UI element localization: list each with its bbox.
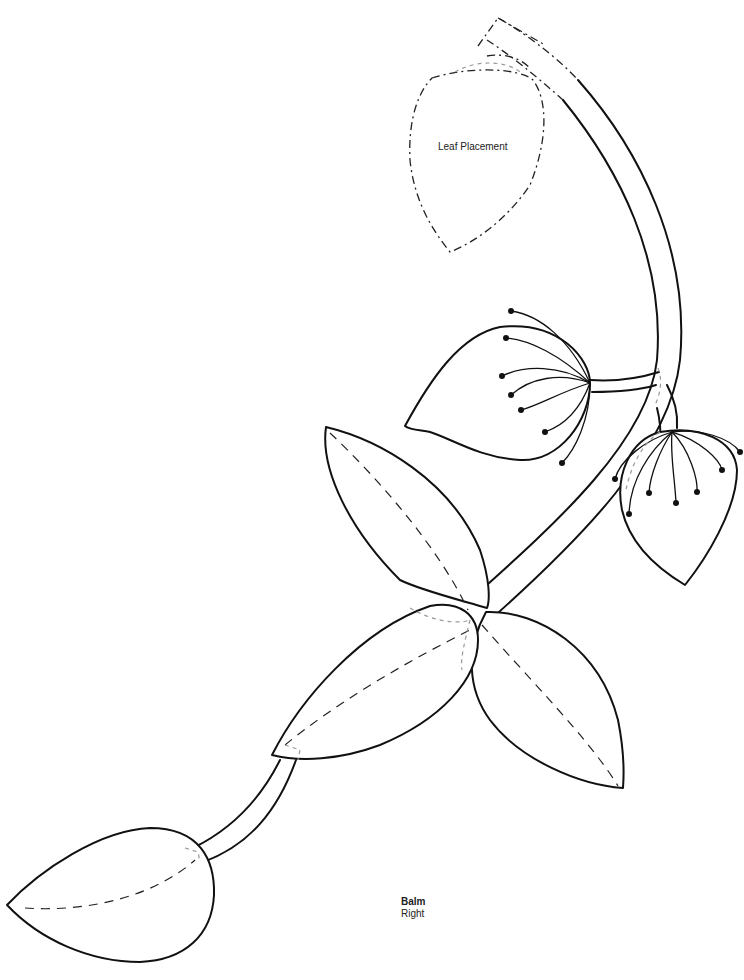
pattern-name: Balm xyxy=(401,896,425,908)
leaf-upper-left xyxy=(325,427,489,610)
right-flower-bud xyxy=(612,430,743,585)
upper-flower-bud xyxy=(405,308,590,466)
leaf-lower-right xyxy=(472,612,624,788)
lower-stem xyxy=(193,760,296,862)
leaf-middle xyxy=(272,605,478,760)
pattern-orientation: Right xyxy=(401,908,425,920)
leaf-bottom xyxy=(7,828,214,962)
pattern-title-block: Balm Right xyxy=(401,896,425,920)
leaf-placement-outline xyxy=(410,18,545,252)
upper-bud-branch-inner xyxy=(592,385,656,392)
stem-guide xyxy=(487,18,578,100)
upper-bud-branch xyxy=(590,372,659,381)
pattern-drawing xyxy=(0,0,744,980)
leaf-placement-label: Leaf Placement xyxy=(438,141,508,152)
